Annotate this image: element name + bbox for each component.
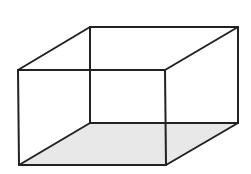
front-right-edge bbox=[165, 70, 166, 165]
wireframe-box-diagram bbox=[0, 0, 251, 174]
bottom-face bbox=[19, 123, 238, 165]
top-right-depth-edge bbox=[165, 27, 238, 70]
top-left-depth-edge bbox=[18, 27, 90, 70]
front-left-edge bbox=[18, 70, 19, 165]
